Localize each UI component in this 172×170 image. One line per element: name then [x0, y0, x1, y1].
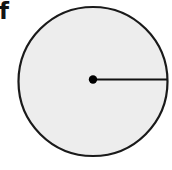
centre-point-dot: [89, 75, 97, 83]
circle-radius-diagram: [0, 0, 172, 170]
figure-container: f: [0, 0, 172, 170]
part-label: f: [0, 0, 13, 25]
